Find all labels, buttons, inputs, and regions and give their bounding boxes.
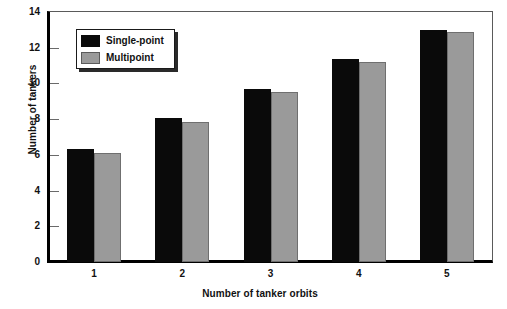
legend-swatch-icon-multipoint [81, 52, 100, 64]
x-axis-title: Number of tanker orbits [40, 288, 480, 299]
x-tick-label: 1 [74, 268, 114, 279]
bar-multipoint-1 [94, 153, 121, 262]
bar-single-point-1 [67, 149, 94, 262]
legend-entry-single-point: Single-point [81, 33, 170, 49]
bar-multipoint-3 [271, 92, 298, 262]
y-tick-label: 14 [10, 7, 40, 17]
legend-label-multipoint: Multipoint [106, 53, 154, 63]
bar-single-point-4 [332, 59, 359, 262]
y-tick-mark [50, 191, 59, 192]
y-tick-mark [50, 155, 59, 156]
y-tick-label: 8 [10, 114, 40, 124]
x-tick-label: 4 [339, 268, 379, 279]
y-tick-label: 0 [10, 257, 40, 267]
x-tick-label: 2 [162, 268, 202, 279]
y-tick-label: 10 [10, 78, 40, 88]
bar-single-point-5 [420, 30, 447, 262]
legend-swatch-icon-single-point [81, 35, 100, 47]
legend-entry-multipoint: Multipoint [81, 50, 170, 66]
bar-single-point-3 [244, 89, 271, 262]
y-tick-label: 12 [10, 43, 40, 53]
chart-legend: Single-point Multipoint [76, 29, 175, 69]
bar-multipoint-5 [447, 32, 474, 262]
bar-multipoint-2 [182, 122, 209, 262]
x-tick-label: 5 [427, 268, 467, 279]
y-tick-label: 6 [10, 150, 40, 160]
y-tick-mark [50, 83, 59, 84]
y-tick-mark [50, 48, 59, 49]
y-axis-tick-labels: 02468101214 [6, 0, 40, 280]
bar-single-point-2 [155, 118, 182, 262]
bar-multipoint-4 [359, 62, 386, 262]
y-tick-label: 2 [10, 221, 40, 231]
bar-chart: Number of tankers 02468101214 12345 Numb… [0, 0, 507, 309]
y-tick-mark [50, 226, 59, 227]
y-tick-label: 4 [10, 186, 40, 196]
legend-label-single-point: Single-point [106, 36, 164, 46]
y-tick-mark [50, 119, 59, 120]
x-tick-label: 3 [251, 268, 291, 279]
